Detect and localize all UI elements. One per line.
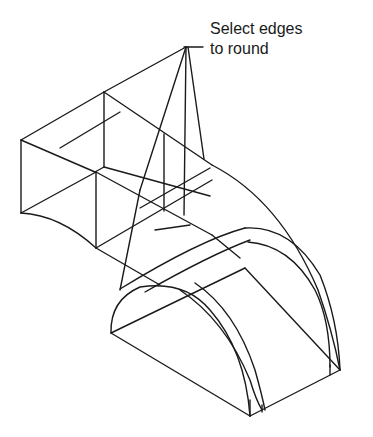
box-section — [21, 92, 212, 248]
annotation-line-2: to round — [210, 39, 269, 59]
half-cylinder — [111, 228, 340, 416]
transition-section — [96, 165, 340, 370]
wireframe-drawing — [0, 0, 373, 437]
annotation-line-1: Select edges — [210, 19, 303, 39]
